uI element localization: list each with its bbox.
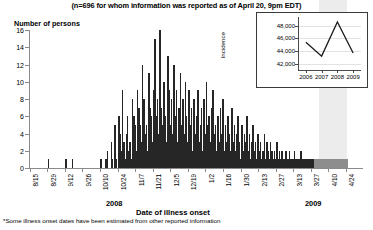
x-tick-label: 1/16 <box>225 174 232 186</box>
inset-y-tick-label: 44,000 <box>277 48 295 54</box>
inset-line-series <box>298 17 361 70</box>
year-label-2009: 2009 <box>305 199 321 208</box>
figure-subtitle: (n=696 for whom information was reported… <box>0 1 373 10</box>
x-tick-label: 11/7 <box>138 174 145 186</box>
y-tick-label: 10 <box>16 78 24 85</box>
histogram-bar <box>107 151 109 168</box>
x-tick-mark <box>65 168 66 172</box>
x-axis-line <box>29 168 363 169</box>
x-tick-mark <box>293 168 294 172</box>
histogram-bar <box>347 159 349 168</box>
inset-x-tick-label: 2007 <box>315 74 328 80</box>
y-tick-mark <box>25 168 29 169</box>
x-tick-label: 10/10 <box>102 174 109 190</box>
x-tick-mark <box>346 168 347 172</box>
x-tick-mark <box>170 168 171 172</box>
x-tick-label: 4/10 <box>331 174 338 186</box>
year-label-2008: 2008 <box>106 199 122 208</box>
y-tick-mark <box>25 116 29 117</box>
y-tick-label: 16 <box>16 27 24 34</box>
histogram-bar <box>100 159 102 168</box>
x-tick-label: 9/12 <box>67 174 74 186</box>
x-tick-label: 12/19 <box>190 174 197 190</box>
histogram-bar <box>72 159 74 168</box>
x-tick-label: 2/13 <box>261 174 268 186</box>
inset-plot-area: 42,00044,00046,00048,000 200620072008200… <box>298 17 361 70</box>
y-tick-mark <box>25 99 29 100</box>
y-tick-label: 14 <box>16 44 24 51</box>
inset-x-tick-mark <box>322 70 323 73</box>
y-tick-label: 6 <box>20 113 24 120</box>
x-tick-mark <box>276 168 277 172</box>
y-tick-mark <box>25 65 29 66</box>
y-tick-label: 4 <box>20 130 24 137</box>
x-tick-label: 1/2 <box>208 174 215 183</box>
y-tick-mark <box>25 82 29 83</box>
x-axis-title: Date of illness onset <box>136 208 210 217</box>
x-tick-mark <box>258 168 259 172</box>
histogram-bar <box>112 159 114 168</box>
x-tick-label: 4/24 <box>348 174 355 186</box>
x-tick-mark <box>135 168 136 172</box>
x-tick-mark <box>47 168 48 172</box>
x-tick-label: 2/27 <box>278 174 285 186</box>
x-tick-label: 1/30 <box>243 174 250 186</box>
epi-curve-figure: (n=696 for whom information was reported… <box>0 0 373 230</box>
histogram-bar <box>116 159 118 168</box>
x-tick-mark <box>328 168 329 172</box>
y-tick-mark <box>25 151 29 152</box>
x-tick-label: 3/13 <box>296 174 303 186</box>
inset-x-tick-label: 2009 <box>346 74 359 80</box>
x-tick-mark <box>223 168 224 172</box>
x-tick-label: 8/29 <box>50 174 57 186</box>
inset-y-axis-title: Incidence <box>219 32 226 59</box>
histogram-bar <box>65 159 67 168</box>
inset-x-tick-label: 2006 <box>299 74 312 80</box>
x-tick-mark <box>82 168 83 172</box>
inset-x-tick-mark <box>353 70 354 73</box>
y-tick-label: 8 <box>20 96 24 103</box>
y-tick-mark <box>25 47 29 48</box>
inset-x-axis-line <box>298 70 361 71</box>
inset-x-tick-mark <box>306 70 307 73</box>
y-tick-label: 12 <box>16 61 24 68</box>
x-tick-label: 11/21 <box>155 174 162 190</box>
y-tick-label: 2 <box>20 147 24 154</box>
x-tick-label: 8/15 <box>32 174 39 186</box>
x-tick-label: 12/5 <box>173 174 180 186</box>
x-tick-mark <box>30 168 31 172</box>
y-tick-label: 0 <box>20 165 24 172</box>
x-tick-label: 10/24 <box>120 174 127 190</box>
x-tick-mark <box>100 168 101 172</box>
x-tick-mark <box>188 168 189 172</box>
x-tick-label: 3/27 <box>313 174 320 186</box>
inset-x-tick-mark <box>337 70 338 73</box>
x-tick-mark <box>153 168 154 172</box>
inset-y-tick-label: 48,000 <box>277 23 295 29</box>
inset-y-tick-label: 42,000 <box>277 61 295 67</box>
y-tick-mark <box>25 134 29 135</box>
figure-footnote: *Some illness onset dates have been esti… <box>3 217 220 224</box>
x-tick-mark <box>118 168 119 172</box>
inset-chart: 42,00044,00046,00048,000 200620072008200… <box>256 12 368 88</box>
inset-x-tick-label: 2008 <box>331 74 344 80</box>
y-tick-mark <box>25 30 29 31</box>
x-tick-mark <box>205 168 206 172</box>
x-tick-mark <box>311 168 312 172</box>
histogram-bar <box>48 159 50 168</box>
x-tick-label: 9/26 <box>85 174 92 186</box>
inset-y-tick-label: 46,000 <box>277 35 295 41</box>
x-tick-mark <box>241 168 242 172</box>
